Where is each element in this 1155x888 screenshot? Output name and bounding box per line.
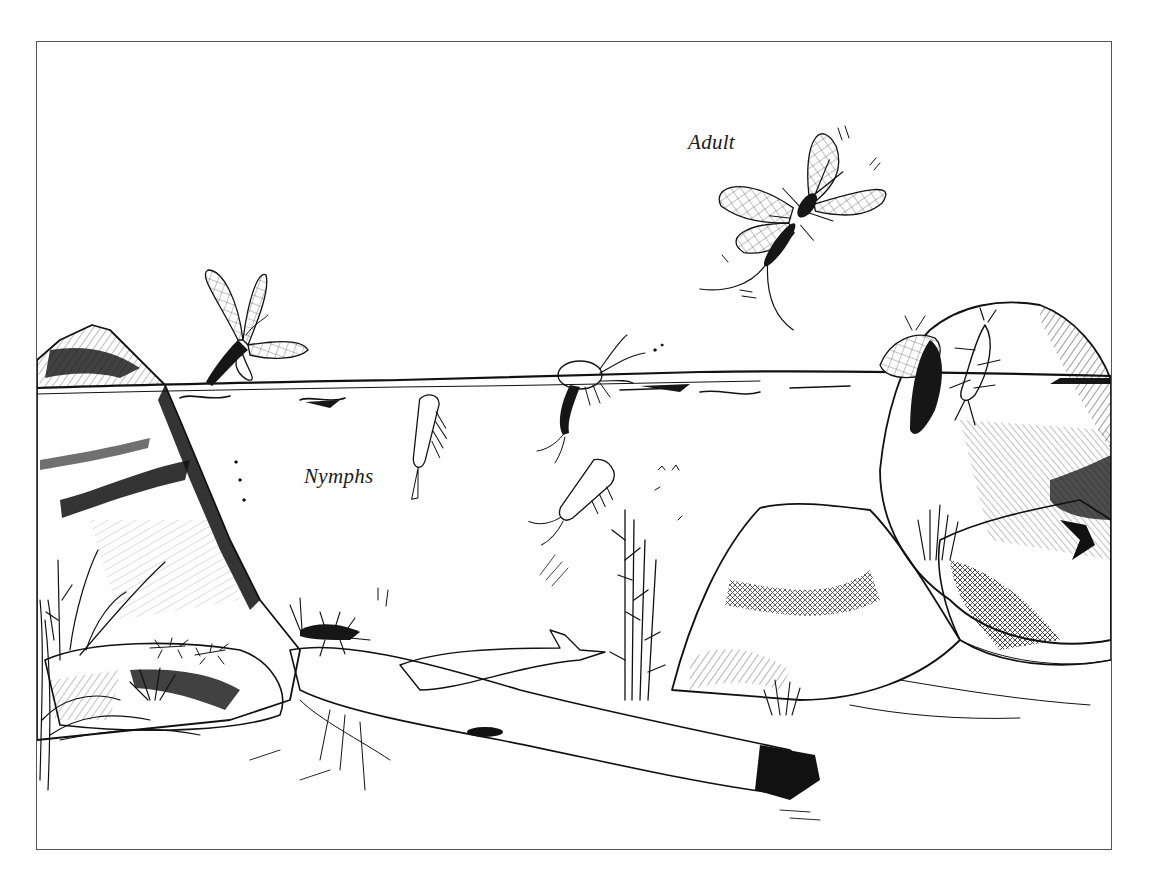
mayfly-emerging-left [205,270,308,386]
nymph-swimming-1 [406,394,452,503]
ground-texture [250,750,820,820]
label-nymphs: Nymphs [304,464,373,489]
nymph-emerging-center [537,335,645,463]
nymph-swimming-2 [522,445,628,563]
label-adult: Adult [688,130,735,155]
rock-left-flat [45,643,283,730]
mayfly-lifecycle-scene [0,0,1155,888]
mayflies-on-right-rock [880,308,1000,434]
motion-lines-nymph [540,555,568,586]
aquatic-plant-center [610,510,665,700]
